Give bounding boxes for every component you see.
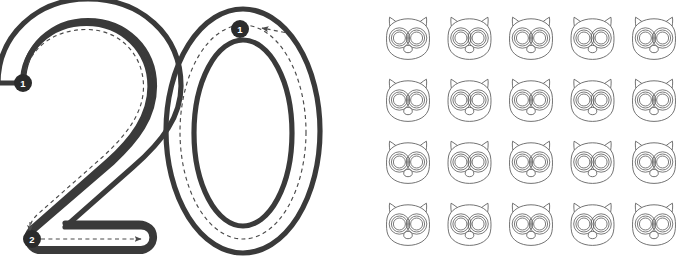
owl-face-item: [510, 79, 553, 121]
owl-face-icon: [387, 17, 430, 59]
owl-face-item: [387, 79, 430, 121]
tracing-worksheet: 1 2 1: [0, 0, 687, 263]
owl-face-item: [448, 203, 491, 245]
owl-face-item: [633, 79, 676, 121]
owl-face-item: [510, 203, 553, 245]
marker-1-label: 1: [20, 78, 26, 89]
owl-face-item: [571, 17, 614, 59]
worksheet-canvas: 1 2 1: [0, 0, 687, 263]
owl-face-item: [571, 141, 614, 183]
digit-zero-inner-ellipse: [194, 40, 292, 226]
owl-face-icon: [571, 79, 614, 121]
owl-face-item: [510, 141, 553, 183]
digit-two[interactable]: 1 2: [0, 0, 181, 252]
digit-zero-outer-ellipse: [166, 9, 320, 253]
digit-two-marker-1[interactable]: 1: [14, 74, 32, 92]
owl-face-icon: [387, 79, 430, 121]
marker-2-label: 2: [29, 234, 34, 245]
owl-face-item: [510, 17, 553, 59]
owl-face-item: [571, 203, 614, 245]
owl-face-icon: [387, 141, 430, 183]
owl-face-icon: [571, 141, 614, 183]
owl-face-icon: [510, 79, 553, 121]
owl-face-icon: [448, 203, 491, 245]
owl-face-icon: [633, 79, 676, 121]
digit-two-marker-2[interactable]: 2: [23, 230, 41, 248]
owl-face-item: [387, 141, 430, 183]
owl-face-item: [633, 203, 676, 245]
owl-face-item: [633, 141, 676, 183]
digit-zero-marker-1[interactable]: 1: [231, 20, 249, 38]
owl-face-icon: [448, 17, 491, 59]
owl-face-icon: [510, 203, 553, 245]
owl-face-icon: [571, 17, 614, 59]
owl-face-icon: [510, 141, 553, 183]
owl-counting-grid: [387, 17, 676, 245]
owl-face-item: [448, 141, 491, 183]
owl-face-icon: [633, 141, 676, 183]
owl-face-icon: [633, 203, 676, 245]
digit-two-ribbon: [12, 24, 155, 252]
owl-face-item: [387, 203, 430, 245]
owl-face-icon: [633, 17, 676, 59]
owl-face-item: [387, 17, 430, 59]
owl-face-icon: [510, 17, 553, 59]
owl-face-icon: [387, 203, 430, 245]
digit-zero-guide-path: [180, 25, 306, 239]
owl-face-icon: [448, 79, 491, 121]
owl-face-item: [633, 17, 676, 59]
digit-zero[interactable]: 1: [166, 9, 320, 253]
marker-1-label: 1: [237, 24, 243, 35]
owl-face-item: [448, 79, 491, 121]
owl-face-icon: [448, 141, 491, 183]
owl-face-icon: [571, 203, 614, 245]
owl-face-item: [448, 17, 491, 59]
owl-face-item: [571, 79, 614, 121]
